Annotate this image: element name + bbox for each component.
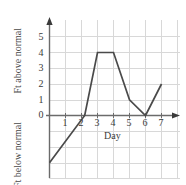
y-tick-label-2: 2: [36, 78, 46, 89]
y-tick-label-3: 3: [36, 62, 46, 73]
y-axis-label-below-line1: Ft below normal: [12, 122, 23, 185]
x-tick-label-5: 5: [124, 117, 134, 128]
line-chart-figure: Ft above normal Ft below normal Day 5 4 …: [0, 0, 186, 185]
y-tick-label-4: 4: [36, 47, 46, 58]
y-axis-label-above: Ft above normal: [12, 28, 23, 94]
x-tick-label-1: 1: [60, 117, 70, 128]
y-axis-label-below: Ft below normal: [12, 122, 23, 185]
x-tick-label-7: 7: [156, 117, 166, 128]
x-tick-label-4: 4: [108, 117, 118, 128]
y-axis: [46, 17, 52, 178]
arrow-right-icon: [172, 112, 180, 118]
y-tick-label-1: 1: [36, 94, 46, 105]
x-tick-label-2: 2: [76, 117, 86, 128]
arrow-up-icon: [46, 17, 52, 25]
y-tick-label-5: 5: [36, 31, 46, 42]
x-tick-label-6: 6: [140, 117, 150, 128]
x-axis-label: Day: [104, 130, 121, 141]
grid-vertical: [66, 20, 178, 178]
y-axis-label-above-line1: Ft above normal: [12, 28, 23, 94]
data-series-line: [50, 53, 162, 163]
x-tick-label-3: 3: [92, 117, 102, 128]
plot-area: [0, 0, 186, 185]
y-tick-label-0: 0: [36, 109, 46, 120]
